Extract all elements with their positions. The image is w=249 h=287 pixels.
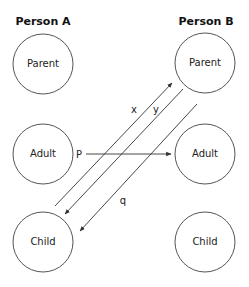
node-label: Parent [189,57,221,68]
transactional-analysis-diagram: Person A Person B Parent Adult Child Par… [0,0,249,287]
transaction-x-arrow [55,83,172,206]
transaction-y-label: y [153,104,159,115]
node-label: Adult [192,148,218,159]
person-a-child-node: Child [13,212,73,272]
person-b-parent-node: Parent [175,33,235,93]
node-label: Child [192,236,217,247]
node-label: Parent [27,58,59,69]
node-label: Child [30,236,55,247]
person-a-header: Person A [15,15,71,28]
person-b-header: Person B [178,15,233,28]
person-b-adult-node: Adult [175,124,235,184]
node-label: Adult [30,148,56,159]
transaction-x-label: x [131,104,137,115]
transaction-q-label: q [120,195,126,206]
person-a-parent-node: Parent [13,34,73,94]
person-a-adult-node: Adult [13,124,73,184]
person-b-child-node: Child [175,212,235,272]
transaction-p-label: P [76,149,82,160]
